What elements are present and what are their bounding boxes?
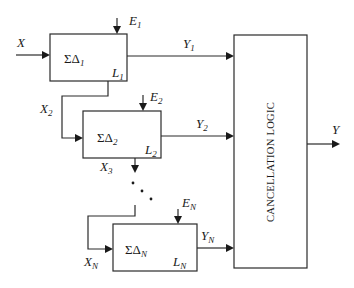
ellipsis-dots <box>132 182 153 201</box>
svg-text:Y: Y <box>332 122 341 137</box>
svg-text:Y1: Y1 <box>183 36 195 53</box>
cancellation-logic-block: CANCELLATION LOGIC <box>234 35 307 268</box>
svg-text:X3: X3 <box>99 159 113 176</box>
modulator-2: ΣΔ2 L2 E2 Y2 <box>83 89 234 159</box>
arrow-head-icon <box>226 132 234 140</box>
svg-text:X2: X2 <box>39 101 53 118</box>
cascaded-sigma-delta-diagram: X ΣΔ1 L1 E1 Y1 X2 ΣΔ2 L2 E2 Y2 <box>0 0 354 288</box>
arrow-head-icon <box>174 216 182 224</box>
svg-text:XN: XN <box>83 254 99 271</box>
svg-text:YN: YN <box>201 228 215 245</box>
arrow-head-icon <box>139 103 147 111</box>
modulator-n: ΣΔN LN EN YN <box>113 195 234 271</box>
svg-text:E2: E2 <box>149 89 163 106</box>
arrow-head-icon <box>113 26 121 34</box>
svg-text:EN: EN <box>181 195 197 212</box>
arrow-head-icon <box>75 134 83 142</box>
arrow-head-icon <box>332 140 340 148</box>
input-x: X <box>16 35 50 59</box>
arrow-head-icon <box>131 165 139 173</box>
svg-text:E1: E1 <box>128 13 141 30</box>
svg-text:X: X <box>16 35 26 50</box>
svg-text:Y2: Y2 <box>196 116 208 133</box>
arrow-head-icon <box>226 52 234 60</box>
cancellation-logic-label: CANCELLATION LOGIC <box>265 102 276 222</box>
output-y: Y <box>307 122 341 148</box>
modulator-1: ΣΔ1 L1 E1 Y1 <box>50 13 234 82</box>
x3-output: X3 <box>99 158 139 176</box>
arrow-head-icon <box>226 244 234 252</box>
arrow-head-icon <box>42 51 50 59</box>
arrow-head-icon <box>105 245 113 253</box>
